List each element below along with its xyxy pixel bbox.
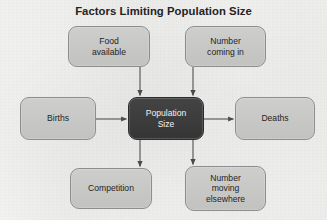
- node-number-moving-elsewhere-line3: elsewhere: [206, 194, 245, 205]
- page-title: Factors Limiting Population Size: [0, 5, 327, 17]
- node-population-size-line1: Population: [146, 108, 187, 119]
- node-food-available-line2: available: [92, 47, 126, 58]
- node-number-moving-elsewhere-line1: Number: [206, 173, 245, 184]
- node-births-label: Births: [47, 113, 69, 124]
- diagram-page: Factors Limiting Population Size Food av…: [0, 0, 327, 220]
- node-deaths[interactable]: Deaths: [235, 97, 315, 140]
- node-competition[interactable]: Competition: [70, 168, 152, 209]
- node-population-size-line2: Size: [146, 119, 187, 130]
- node-number-moving-elsewhere[interactable]: Number moving elsewhere: [185, 166, 266, 211]
- node-number-coming-in-line2: coming in: [207, 47, 244, 58]
- node-number-coming-in-line1: Number: [207, 36, 244, 47]
- node-population-size[interactable]: Population Size: [128, 97, 204, 140]
- node-births[interactable]: Births: [20, 97, 96, 140]
- node-number-moving-elsewhere-line2: moving: [206, 183, 245, 194]
- node-deaths-label: Deaths: [261, 113, 288, 124]
- node-food-available[interactable]: Food available: [68, 26, 150, 67]
- node-competition-label: Competition: [88, 183, 134, 194]
- node-number-coming-in[interactable]: Number coming in: [185, 26, 266, 67]
- node-food-available-line1: Food: [92, 36, 126, 47]
